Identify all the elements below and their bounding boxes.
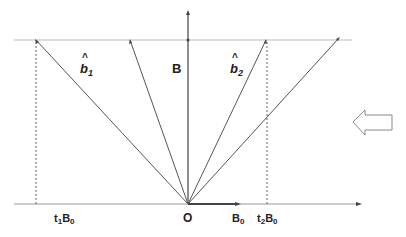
ray-4 xyxy=(188,38,339,204)
B0-label: B0 xyxy=(232,212,245,226)
ray-b1 xyxy=(36,40,188,204)
t1B0-label: t1B0 xyxy=(54,212,75,226)
left-arrow-icon xyxy=(353,110,392,135)
B-label: B xyxy=(172,61,181,76)
horizontal-axis-arrowhead xyxy=(356,202,362,206)
origin-label: O xyxy=(183,211,192,225)
B0-arrowhead xyxy=(235,202,241,206)
B-tip-dot xyxy=(187,39,190,42)
t2B0-label: t2B0 xyxy=(257,212,278,226)
b1-label: b1 xyxy=(80,61,93,78)
ray-b2 xyxy=(188,40,266,204)
vector-diagram: ^ b1 B ^ b2 t1B0 O B0 t2B0 xyxy=(0,0,406,237)
vertical-axis-arrowhead xyxy=(186,10,190,15)
b2-label: b2 xyxy=(230,61,243,78)
